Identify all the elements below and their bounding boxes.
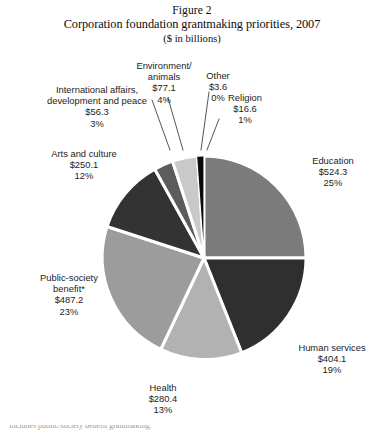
pie-label-other-value: $3.6 <box>196 81 240 92</box>
pie-label-education-percent: 25% <box>288 177 378 188</box>
pie-slices <box>102 156 306 360</box>
pie-label-arts-and-culture-value: $250.1 <box>22 159 146 170</box>
pie-label-public-society-benefit-name-line2: benefit* <box>8 283 130 294</box>
pie-chart: Environment/ animals $77.1 4% Other $3.6… <box>0 0 384 431</box>
pie-label-health: Health $280.4 13% <box>125 382 201 416</box>
pie-label-arts-and-culture-percent: 12% <box>22 170 146 181</box>
pie-label-religion-percent: 1% <box>212 114 278 125</box>
pie-label-environment-animals-name-line2: animals <box>120 71 208 82</box>
pie-label-health-value: $280.4 <box>125 393 201 404</box>
pie-label-public-society-benefit-percent: 23% <box>8 306 130 317</box>
pie-label-human-services-name: Human services <box>282 342 382 353</box>
figure-footnote-text: * Includes public/society benefit grantm… <box>3 425 233 430</box>
pie-label-international-affairs-name-line2: development and peace <box>14 95 180 106</box>
pie-label-religion-value: $16.6 <box>212 103 278 114</box>
pie-label-human-services-value: $404.1 <box>282 353 382 364</box>
pie-label-international-affairs-value: $56.3 <box>14 106 180 117</box>
pie-label-human-services-percent: 19% <box>282 364 382 375</box>
pie-label-education-value: $524.3 <box>288 166 378 177</box>
figure-footnote: * Includes public/society benefit grantm… <box>3 425 233 431</box>
pie-label-environment-animals-name-line1: Environment/ <box>120 60 208 71</box>
pie-label-international-affairs-percent: 3% <box>14 118 180 129</box>
pie-label-religion: Religion $16.6 1% <box>212 92 278 126</box>
pie-label-other-name: Other <box>196 70 240 81</box>
pie-label-public-society-benefit-value: $487.2 <box>8 294 130 305</box>
pie-label-health-name: Health <box>125 382 201 393</box>
pie-label-education: Education $524.3 25% <box>288 155 378 189</box>
pie-label-religion-name: Religion <box>212 92 278 103</box>
pie-label-arts-and-culture-name: Arts and culture <box>22 148 146 159</box>
pie-label-health-percent: 13% <box>125 404 201 415</box>
pie-label-education-name: Education <box>288 155 378 166</box>
pie-label-public-society-benefit-name-line1: Public-society <box>8 272 130 283</box>
pie-label-human-services: Human services $404.1 19% <box>282 342 382 376</box>
figure-container: Figure 2 Corporation foundation grantmak… <box>0 0 384 431</box>
pie-label-public-society-benefit: Public-society benefit* $487.2 23% <box>8 272 130 317</box>
pie-label-international-affairs-name-line1: International affairs, <box>14 84 180 95</box>
pie-label-international-affairs: International affairs, development and p… <box>14 84 180 129</box>
pie-label-arts-and-culture: Arts and culture $250.1 12% <box>22 148 146 182</box>
